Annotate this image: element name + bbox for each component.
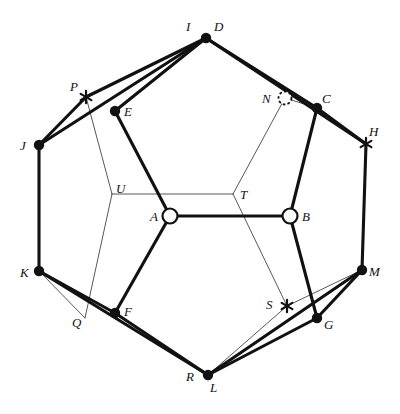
edge-H-M [362,144,366,270]
vertex-marker-k [34,266,44,276]
vertex-label-j: J [20,139,26,152]
vertex-label-p: P [70,80,78,93]
thin-construction-lines [39,97,362,375]
vertex-label-g: G [324,318,333,331]
geometry-svg [0,0,400,414]
vertex-label-i: I [186,20,190,33]
vertex-marker-d [201,33,211,43]
vertex-marker-s [282,300,293,312]
edge-A-F [115,216,170,313]
edge-L-G [208,318,317,375]
vertex-label-a: A [150,210,158,223]
vertex-label-h: H [369,125,378,138]
vertex-label-s: S [266,298,273,311]
vertex-markers [34,33,372,380]
vertex-label-n: N [262,92,271,105]
thin-T-N [233,98,285,194]
vertex-label-l: L [210,381,217,394]
vertex-marker-a [163,209,178,224]
vertex-label-b: B [302,210,310,223]
vertex-label-k: K [20,266,29,279]
edge-E-A [115,111,170,216]
vertex-marker-g [312,313,322,323]
vertex-marker-b [283,209,298,224]
thin-S-M [287,270,362,306]
vertex-label-f: F [124,305,132,318]
vertex-label-e: E [124,105,132,118]
vertex-marker-j [34,140,44,150]
vertex-label-m: M [369,265,380,278]
diagram-canvas: ABCDEFGHIJKLMNPQRSTU [0,0,400,414]
vertex-label-c: C [322,92,331,105]
edge-I-J [39,38,206,145]
vertex-label-t: T [240,188,247,201]
thick-linkage-edges [39,38,366,375]
edge-B-C [290,108,317,216]
vertex-marker-e [110,106,120,116]
vertex-marker-f [110,308,120,318]
vertex-label-d: D [214,20,223,33]
edge-L-M [208,270,362,375]
thin-T-S [233,194,287,306]
edge-F-L [115,313,208,375]
vertex-marker-c [312,103,322,113]
vertex-marker-l [203,370,213,380]
vertex-marker-m [357,265,367,275]
vertex-marker-n [279,92,292,105]
edge-P-D [86,38,206,97]
edge-G-M [317,270,362,318]
vertex-label-q: Q [72,316,81,329]
vertex-label-r: R [186,370,194,383]
vertex-label-u: U [116,182,125,195]
